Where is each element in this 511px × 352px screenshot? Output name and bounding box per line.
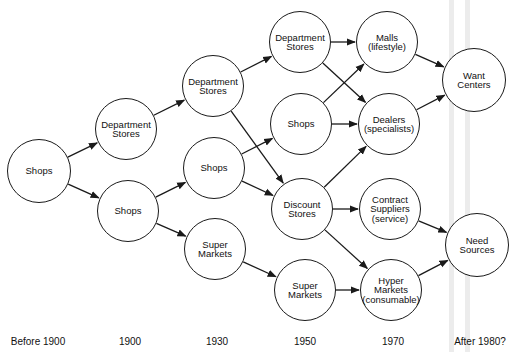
timeline-label-t1: 1900 xyxy=(119,336,141,347)
node-shops0: Shops xyxy=(7,139,71,203)
edge-layer xyxy=(0,0,511,352)
node-label: Super Markets xyxy=(288,281,322,300)
node-super1950: Super Markets xyxy=(274,259,336,321)
arrow-dealers1970-to-want xyxy=(417,95,445,110)
node-label: Discount Stores xyxy=(284,200,321,219)
node-contract1970: Contract Suppliers (service) xyxy=(359,178,421,240)
node-super1930: Super Markets xyxy=(184,218,246,280)
node-label: Hyper Markets (consumable) xyxy=(362,276,420,305)
arrow-discount1950-to-dealers1970 xyxy=(324,146,366,187)
node-dept1930: Department Stores xyxy=(182,55,244,117)
node-malls1970: Malls (lifestyle) xyxy=(356,11,418,73)
node-dealers1970: Dealers (specialists) xyxy=(358,93,420,155)
arrow-dept1930-to-dept1950 xyxy=(241,56,272,72)
arrow-dept1900-to-dept1930 xyxy=(154,100,185,115)
arrow-shops1900-to-super1930 xyxy=(156,223,185,236)
arrow-super1930-to-super1950 xyxy=(243,262,276,277)
arrow-shops1930-to-discount1950 xyxy=(242,181,273,195)
node-label: Shops xyxy=(115,206,142,216)
timeline-label-t2: 1930 xyxy=(206,336,228,347)
node-shops1900: Shops xyxy=(97,180,159,242)
arrow-shops0-to-dept1900 xyxy=(68,143,97,157)
timeline-label-t0: Before 1900 xyxy=(11,336,66,347)
arrow-discount1950-to-hyper1970 xyxy=(325,230,367,269)
arrow-hyper1970-to-need xyxy=(418,260,447,275)
timeline-label-t5: After 1980? xyxy=(454,336,506,347)
node-label: Shops xyxy=(288,119,315,129)
node-label: Shops xyxy=(201,163,228,173)
node-hyper1970: Hyper Markets (consumable) xyxy=(360,259,422,321)
node-label: Want Centers xyxy=(457,71,490,90)
node-dept1900: Department Stores xyxy=(95,98,157,160)
arrow-group xyxy=(68,42,448,290)
arrow-shops0-to-shops1900 xyxy=(68,184,99,198)
timeline-label-t3: 1950 xyxy=(294,336,316,347)
node-need: Need Sources xyxy=(445,213,509,277)
node-label: Need Sources xyxy=(460,236,495,255)
node-label: Malls (lifestyle) xyxy=(368,33,406,52)
node-dept1950: Department Stores xyxy=(269,11,331,73)
node-label: Department Stores xyxy=(188,77,238,96)
node-shops1950: Shops xyxy=(270,93,332,155)
node-label: Dealers (specialists) xyxy=(364,115,414,134)
node-label: Department Stores xyxy=(101,120,151,139)
arrow-contract1970-to-need xyxy=(419,221,447,233)
arrow-shops1900-to-shops1930 xyxy=(156,182,186,197)
node-want: Want Centers xyxy=(442,48,506,112)
node-discount1950: Discount Stores xyxy=(271,178,333,240)
node-shops1930: Shops xyxy=(183,137,245,199)
arrow-malls1970-to-want xyxy=(415,54,443,66)
node-label: Shops xyxy=(26,166,53,176)
arrow-shops1930-to-shops1950 xyxy=(242,138,273,154)
node-label: Contract Suppliers (service) xyxy=(370,195,410,224)
node-label: Super Markets xyxy=(198,240,232,259)
timeline-label-t4: 1970 xyxy=(382,336,404,347)
node-label: Department Stores xyxy=(275,33,325,52)
